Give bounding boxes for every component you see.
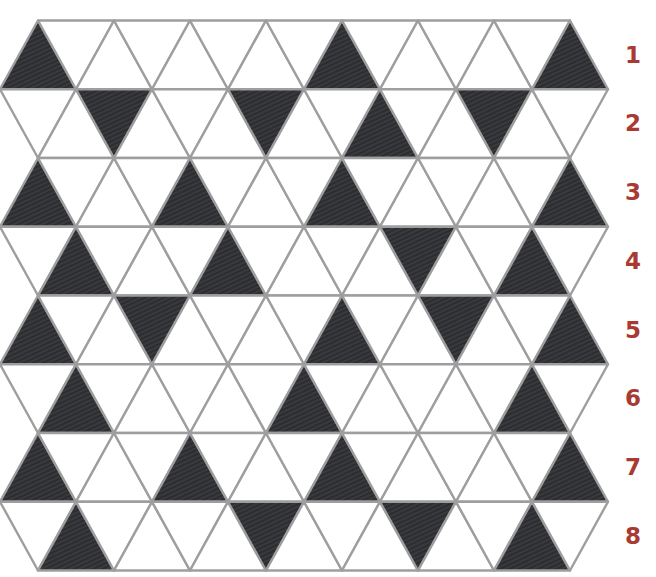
row-label-2: 2 [620,109,646,137]
row-label-8: 8 [620,522,646,550]
triangle-grid [0,0,612,577]
triangle-cells [0,21,608,571]
row-label-7: 7 [620,453,646,481]
row-label-3: 3 [620,178,646,206]
row-label-5: 5 [620,316,646,344]
row-label-4: 4 [620,247,646,275]
row-label-1: 1 [620,41,646,69]
row-label-6: 6 [620,384,646,412]
